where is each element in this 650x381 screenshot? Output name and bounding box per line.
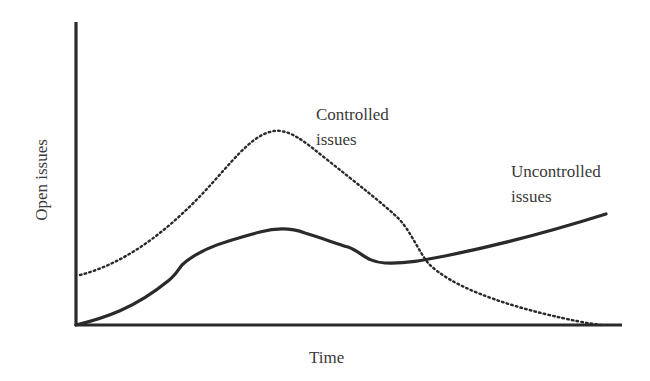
x-axis-label: Time xyxy=(309,345,344,370)
annotation-uncontrolled-issues: Uncontrolled issues xyxy=(511,159,601,209)
annotation-controlled-line2: issues xyxy=(316,127,389,152)
annotation-uncontrolled-line2: issues xyxy=(511,184,601,209)
annotation-controlled-line1: Controlled xyxy=(316,102,389,127)
annotation-uncontrolled-line1: Uncontrolled xyxy=(511,159,601,184)
y-axis-label: Open issues xyxy=(32,139,52,221)
annotation-controlled-issues: Controlled issues xyxy=(316,102,389,152)
